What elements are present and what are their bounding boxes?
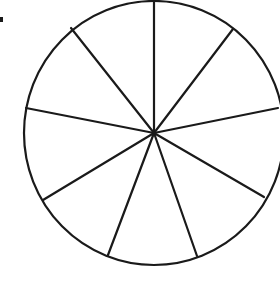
sector-spoke-8 [26, 108, 154, 133]
sector-spoke-4 [154, 133, 264, 197]
sector-spoke-3 [154, 108, 278, 133]
sector-spoke-5 [154, 133, 197, 256]
sector-spoke-7 [43, 133, 154, 200]
marker-dot [0, 17, 3, 22]
sector-spoke-9 [71, 28, 154, 133]
sector-circle-diagram [0, 0, 280, 290]
sector-spoke-2 [154, 29, 233, 133]
sector-spoke-6 [108, 133, 154, 255]
